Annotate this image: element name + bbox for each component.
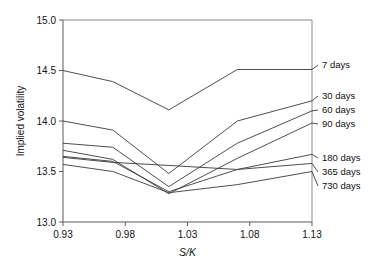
y-axis-tick-label: 13.5 (37, 166, 57, 177)
series-line-90-days (63, 123, 312, 194)
x-axis-tick-label: 1.13 (302, 229, 322, 240)
x-axis-tick-label: 0.98 (116, 229, 136, 240)
legend-label-730-days: 730 days (322, 180, 361, 191)
y-axis-title: Implied volatility (15, 86, 26, 157)
x-axis-tick-label: 1.03 (178, 229, 198, 240)
chart-canvas: 13.013.514.014.515.00.930.981.031.081.13… (0, 0, 377, 278)
legend-label-7-days: 7 days (322, 59, 350, 70)
legend-leader-line (312, 163, 318, 172)
legend-label-180-days: 180 days (322, 152, 361, 163)
series-line-7-days (63, 69, 312, 109)
x-axis-title: S/K (179, 246, 197, 258)
series-line-180-days (63, 154, 312, 191)
legend-leader-line (312, 65, 318, 69)
implied-volatility-smile-chart: 13.013.514.014.515.00.930.981.031.081.13… (0, 0, 377, 278)
y-axis-tick-label: 14.5 (37, 65, 57, 76)
y-axis-tick-label: 14.0 (37, 116, 57, 127)
series-line-60-days (63, 111, 312, 187)
legend-label-365-days: 365 days (322, 166, 361, 177)
y-axis-tick-label: 13.0 (37, 217, 57, 228)
legend-leader-line (312, 110, 318, 111)
legend-leader-line (312, 172, 318, 187)
series-line-730-days (63, 164, 312, 192)
x-axis-tick-label: 0.93 (53, 229, 73, 240)
legend-label-60-days: 60 days (322, 104, 356, 115)
x-axis-tick-label: 1.08 (240, 229, 260, 240)
legend-label-90-days: 90 days (322, 118, 356, 129)
legend-leader-line (312, 154, 318, 158)
legend-label-30-days: 30 days (322, 90, 356, 101)
y-axis-tick-label: 15.0 (37, 15, 57, 26)
legend-leader-line (312, 123, 318, 124)
series-line-30-days (63, 101, 312, 174)
legend-leader-line (312, 96, 318, 101)
